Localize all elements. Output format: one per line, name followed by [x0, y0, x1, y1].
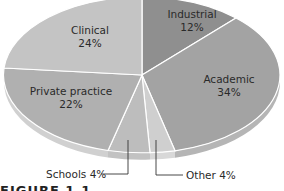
label-clinical-pct: 24% — [50, 37, 130, 50]
label-industrial: Industrial 12% — [152, 8, 232, 34]
label-clinical: Clinical 24% — [50, 24, 130, 50]
label-academic-name: Academic — [189, 73, 269, 86]
label-clinical-name: Clinical — [50, 24, 130, 37]
label-private-practice-pct: 22% — [16, 98, 126, 111]
callout-schools: Schools 4% — [46, 168, 106, 180]
figure-caption: FIGURE 1.1 — [0, 180, 91, 191]
label-industrial-name: Industrial — [152, 8, 232, 21]
label-academic-pct: 34% — [189, 86, 269, 99]
label-private-practice: Private practice 22% — [16, 85, 126, 111]
callout-other: Other 4% — [186, 169, 236, 181]
label-industrial-pct: 12% — [152, 21, 232, 34]
label-academic: Academic 34% — [189, 73, 269, 99]
label-private-practice-name: Private practice — [16, 85, 126, 98]
